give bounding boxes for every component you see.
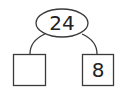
whole-value: 24 — [49, 11, 74, 35]
right-connector — [82, 34, 97, 54]
number-bond-diagram: 24 8 — [0, 0, 121, 94]
part-box-left[interactable] — [14, 55, 46, 86]
whole-circle: 24 — [36, 9, 88, 37]
part-right-value: 8 — [92, 58, 105, 82]
part-box-right: 8 — [83, 55, 114, 86]
left-connector — [30, 34, 45, 54]
